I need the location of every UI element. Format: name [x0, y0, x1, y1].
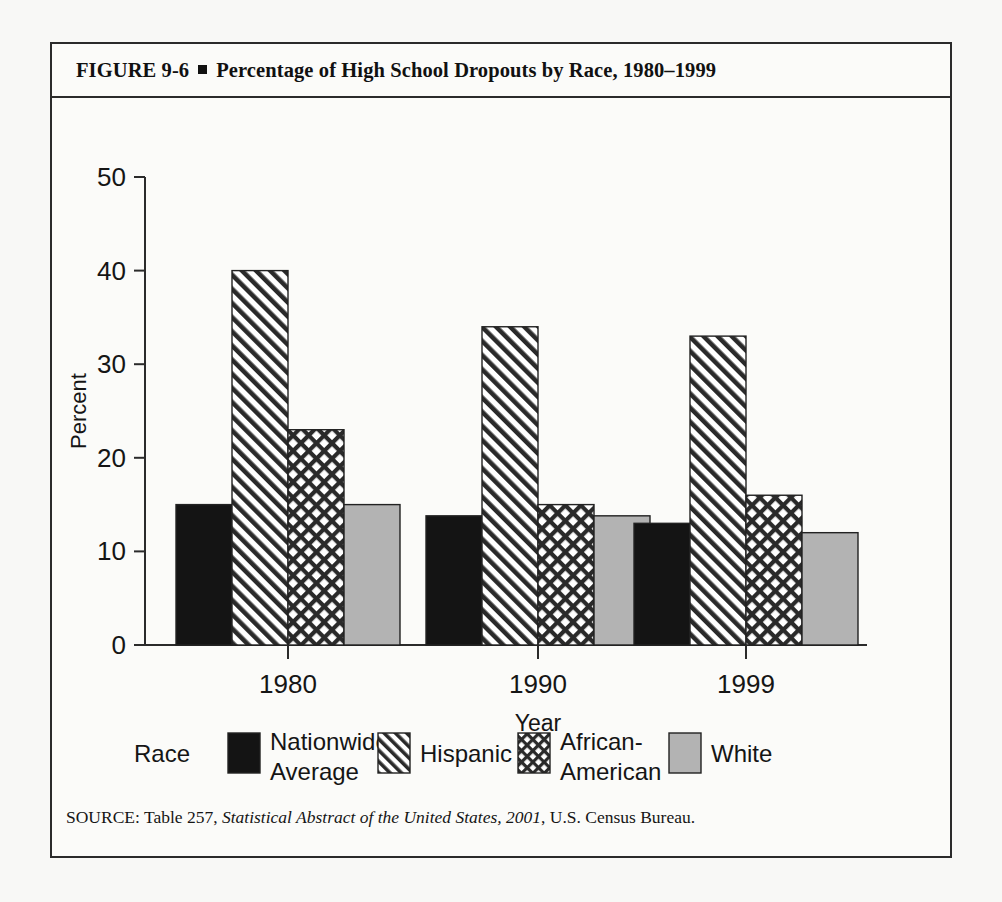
bar-1980-cross-hatch: African-American 1980: 23%: [288, 430, 344, 645]
y-axis-title: Percent: [66, 373, 91, 449]
legend-swatch-solid-gray: [669, 733, 701, 773]
bar-1999-diagonal-hatch: Hispanic 1999: 33%: [690, 336, 746, 645]
x-axis-tick-label-1999: 1999: [717, 669, 775, 699]
legend-item-1[interactable]: Hispanic: [378, 733, 512, 773]
bar-1999-cross-hatch: African-American 1999: 16%: [746, 495, 802, 645]
chart-plot-area: 01020304050PercentNationwide Average 198…: [52, 98, 950, 860]
y-axis-tick-label: 30: [97, 349, 126, 379]
figure-number-label: FIGURE 9-6: [76, 59, 189, 82]
source-suffix: , U.S. Census Bureau.: [541, 807, 695, 827]
x-axis-title: Year: [515, 710, 562, 736]
bar-1980-solid-black: Nationwide Average 1980: 15%: [176, 505, 232, 645]
bar-group-1980: Nationwide Average 1980: 15%Hispanic 198…: [176, 271, 400, 645]
legend-label-line1: Nationwide: [270, 728, 389, 755]
legend-swatch-diagonal-hatch: [378, 733, 410, 773]
x-axis-tick-label-1990: 1990: [509, 669, 567, 699]
bar-1980-solid-gray: White 1980: 15%: [344, 505, 400, 645]
y-axis-tick-label: 0: [112, 630, 126, 660]
legend-label-line2: American: [560, 758, 661, 785]
legend-label-line1: African-: [560, 728, 643, 755]
bar-1999-solid-gray: White 1999: 12%: [802, 533, 858, 645]
y-axis-tick-label: 50: [97, 162, 126, 192]
legend-label-line1: Hispanic: [420, 740, 512, 767]
bar-chart: 01020304050PercentNationwide Average 198…: [52, 98, 950, 860]
source-note: SOURCE: Table 257, Statistical Abstract …: [66, 807, 936, 828]
bar-1980-diagonal-hatch: Hispanic 1980: 40%: [232, 271, 288, 645]
source-publication-title: Statistical Abstract of the United State…: [222, 807, 541, 827]
legend-label-line1: White: [711, 740, 772, 767]
bar-group-1990: Nationwide Average 1990: 13.8%Hispanic 1…: [426, 327, 650, 645]
figure-caption-bar: FIGURE 9-6 Percentage of High School Dro…: [52, 44, 950, 98]
bar-group-1999: Nationwide Average 1999: 13%Hispanic 199…: [634, 336, 858, 645]
legend-label-line2: Average: [270, 758, 359, 785]
x-axis-tick-label-1980: 1980: [259, 669, 317, 699]
legend-item-3[interactable]: White: [669, 733, 772, 773]
y-axis-tick-label: 10: [97, 536, 126, 566]
legend-title: Race: [134, 740, 190, 767]
legend-swatch-cross-hatch: [518, 733, 550, 773]
page-title: Percentage of High School Dropouts by Ra…: [216, 59, 716, 82]
y-axis-tick-label: 20: [97, 443, 126, 473]
legend-swatch-solid-black: [228, 733, 260, 773]
legend-item-0[interactable]: NationwideAverage: [228, 728, 389, 785]
square-bullet-icon: [198, 65, 207, 74]
bar-1990-cross-hatch: African-American 1990: 15%: [538, 505, 594, 645]
figure-frame: FIGURE 9-6 Percentage of High School Dro…: [50, 42, 952, 858]
bar-1990-diagonal-hatch: Hispanic 1990: 34%: [482, 327, 538, 645]
legend-item-2[interactable]: African-American: [518, 728, 661, 785]
y-axis-tick-label: 40: [97, 256, 126, 286]
bar-1999-solid-black: Nationwide Average 1999: 13%: [634, 523, 690, 645]
bar-1990-solid-black: Nationwide Average 1990: 13.8%: [426, 516, 482, 645]
source-prefix: SOURCE: Table 257,: [66, 807, 222, 827]
